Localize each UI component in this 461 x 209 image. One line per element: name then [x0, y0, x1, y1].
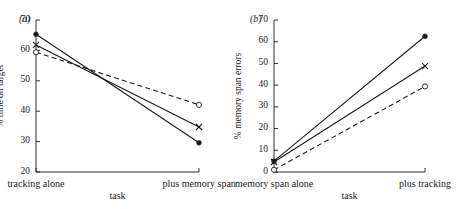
y-tick-label-b-1: 10: [242, 144, 268, 154]
y-tick-label-a-5: 70: [4, 14, 30, 24]
y-tick-label-a-4: 60: [4, 44, 30, 54]
y-tick-label-b-4: 40: [242, 79, 268, 89]
x-tick-label-b-1: plus tracking: [399, 178, 451, 189]
marker-b-open-circle-dashed-0: [271, 167, 276, 172]
chart-panel-a: (a) % time on target task 203040506070tr…: [0, 0, 230, 209]
series-line-a-open-circle-dashed: [36, 52, 199, 105]
y-tick-label-b-7: 70: [242, 14, 268, 24]
y-tick-label-b-6: 60: [242, 35, 268, 45]
y-tick-label-a-3: 50: [4, 74, 30, 84]
figure-container: (a) % time on target task 203040506070tr…: [0, 0, 461, 209]
marker-b-open-circle-dashed-1: [422, 84, 427, 89]
series-line-b-cross-solid: [274, 66, 425, 162]
chart-panel-b: (b) % memory span errors task 0102030405…: [231, 0, 461, 209]
marker-a-filled-circle-solid-0: [34, 32, 39, 37]
marker-a-open-circle-dashed-1: [196, 102, 201, 107]
marker-a-open-circle-dashed-0: [33, 50, 38, 55]
series-line-b-filled-circle-solid: [274, 36, 425, 161]
series-line-a-cross-solid: [36, 45, 199, 127]
y-tick-label-b-2: 20: [242, 122, 268, 132]
series-line-a-filled-circle-solid: [36, 34, 199, 143]
y-tick-label-b-3: 30: [242, 100, 268, 110]
y-tick-label-b-0: 0: [242, 166, 268, 176]
x-tick-label-b-0: memory span alone: [235, 178, 313, 189]
y-tick-label-a-2: 40: [4, 105, 30, 115]
marker-a-filled-circle-solid-1: [197, 140, 202, 145]
x-tick-label-a-0: tracking alone: [8, 178, 65, 189]
marker-b-filled-circle-solid-1: [423, 34, 428, 39]
marker-b-cross-solid-1: [422, 63, 428, 69]
y-tick-label-b-5: 50: [242, 57, 268, 67]
x-tick-label-a-1: plus memory span: [163, 178, 236, 189]
y-tick-label-a-0: 20: [4, 166, 30, 176]
marker-a-cross-solid-1: [196, 124, 202, 130]
y-tick-label-a-1: 30: [4, 135, 30, 145]
